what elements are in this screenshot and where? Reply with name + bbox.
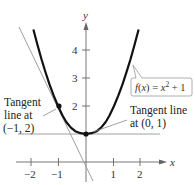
y-axis-arrow-icon xyxy=(84,22,89,30)
svg-text:at (0, 1): at (0, 1) xyxy=(130,117,166,130)
annotation-leader-line xyxy=(93,120,127,132)
x-axis-arrow-icon xyxy=(159,160,167,165)
x-tick-label: 1 xyxy=(111,168,117,180)
annotation-leader-line xyxy=(43,109,56,116)
function-label: f(x) = x2 + 1 xyxy=(135,80,186,94)
y-tick-label: 3 xyxy=(72,72,78,84)
x-tick-label: −2 xyxy=(24,168,36,180)
svg-text:Tangent: Tangent xyxy=(4,96,42,109)
function-label-callout: f(x) = x2 + 1 xyxy=(131,65,192,96)
point-0-1 xyxy=(83,131,88,136)
y-tick-label: 2 xyxy=(72,100,78,112)
svg-text:(−1, 2): (−1, 2) xyxy=(3,122,35,135)
y-tick-label: 4 xyxy=(72,44,78,56)
x-tick-label: 2 xyxy=(137,168,143,180)
point-minus1-2 xyxy=(56,103,61,108)
y-axis-label: y xyxy=(82,9,88,21)
x-tick-label: −1 xyxy=(51,168,63,180)
x-axis: x −2 −1 1 2 xyxy=(16,156,175,180)
svg-text:line at: line at xyxy=(4,109,33,121)
annotation-tangent-left: Tangent line at (−1, 2) xyxy=(3,96,56,135)
x-axis-label: x xyxy=(169,156,175,168)
svg-text:Tangent line: Tangent line xyxy=(130,104,187,117)
chart-canvas: x −2 −1 1 2 y 4 3 2 Tangent line at (−1,… xyxy=(0,0,195,185)
